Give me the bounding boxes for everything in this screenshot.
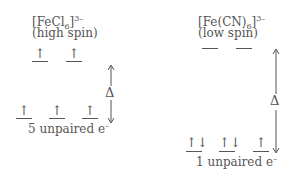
left-lower-electron-2: ↑ xyxy=(49,104,65,117)
left-upper-electron-2: ↑ xyxy=(66,47,82,60)
right-delta-label: Δ xyxy=(270,94,279,108)
right-spin-label: (low spin) xyxy=(198,26,258,40)
right-caption: 1 unpaired e– xyxy=(196,152,277,169)
left-caption: 5 unpaired e– xyxy=(28,119,109,136)
right-upper-orbital-1 xyxy=(202,48,218,49)
left-lower-electron-1: ↑ xyxy=(16,104,32,117)
left-upper-orbital-1 xyxy=(32,61,48,62)
right-upper-orbital-2 xyxy=(236,48,252,49)
left-spin-label: (high spin) xyxy=(32,26,98,40)
right-lower-electron-1: ↑↓ xyxy=(186,136,202,149)
left-delta-label: Δ xyxy=(105,86,114,100)
left-lower-electron-3: ↑ xyxy=(82,104,98,117)
left-upper-orbital-2 xyxy=(66,61,82,62)
right-lower-electron-3: ↑ xyxy=(253,136,269,149)
left-upper-electron-1: ↑ xyxy=(32,47,48,60)
right-lower-electron-2: ↑↓ xyxy=(219,136,235,149)
